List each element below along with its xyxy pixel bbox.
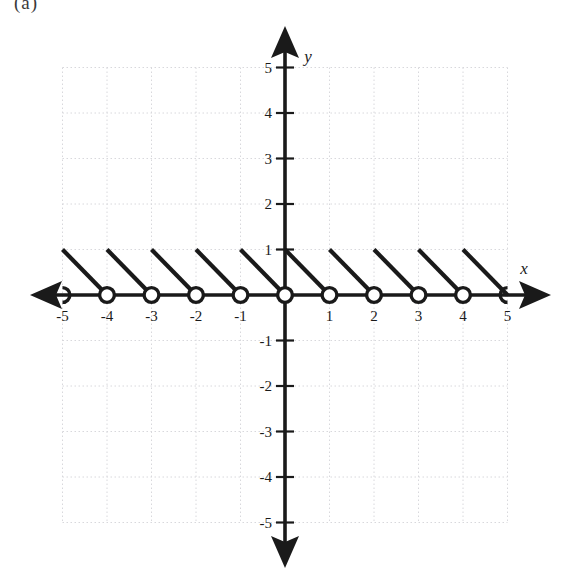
x-tick-label: 1	[326, 308, 334, 324]
function-segment	[419, 250, 464, 296]
x-tick-label: -2	[190, 308, 203, 324]
open-circle-marker	[144, 288, 159, 303]
y-tick-label: -2	[260, 378, 273, 394]
function-segment	[285, 250, 330, 296]
function-segment	[196, 250, 241, 296]
function-segment	[107, 250, 152, 296]
function-segment	[374, 250, 419, 296]
open-circle	[144, 288, 159, 303]
x-tick-label: -3	[145, 308, 158, 324]
open-circle-marker	[322, 288, 337, 303]
y-tick-label: 3	[265, 151, 273, 167]
y-tick-label: -4	[260, 469, 273, 485]
x-tick-label: 4	[459, 308, 467, 324]
function-segment	[152, 250, 197, 296]
y-axis-label: y	[302, 47, 312, 66]
y-tick-label: 2	[265, 196, 273, 212]
open-circle-marker	[100, 288, 115, 303]
open-circle-marker	[189, 288, 204, 303]
open-circle-marker	[456, 288, 471, 303]
function-segment	[241, 250, 286, 296]
cartesian-plane: -5-4-3-2-11234554321-1-2-3-4-5 x y	[0, 0, 562, 585]
open-circle	[278, 288, 293, 303]
open-circle-marker	[411, 288, 426, 303]
x-tick-label: -1	[234, 308, 247, 324]
y-tick-label: -3	[260, 424, 273, 440]
open-circle	[322, 288, 337, 303]
y-tick-label: 1	[265, 242, 273, 258]
open-circle	[233, 288, 248, 303]
x-tick-label: 3	[415, 308, 423, 324]
y-tick-label: -5	[260, 515, 273, 531]
y-tick-label: 4	[265, 105, 273, 121]
y-tick-label: 5	[265, 60, 273, 76]
open-circle	[189, 288, 204, 303]
open-circle	[456, 288, 471, 303]
x-tick-label: -4	[101, 308, 114, 324]
function-segment	[463, 250, 508, 296]
x-tick-label: -5	[56, 308, 69, 324]
open-circle-marker	[367, 288, 382, 303]
x-axis-label: x	[519, 259, 528, 278]
open-circle	[367, 288, 382, 303]
open-circle-marker	[278, 288, 293, 303]
y-tick-label: -1	[260, 333, 273, 349]
x-tick-label: 2	[370, 308, 378, 324]
function-segment	[330, 250, 375, 296]
open-circle	[411, 288, 426, 303]
open-circle-marker	[233, 288, 248, 303]
x-tick-label: 5	[504, 308, 512, 324]
graph-figure: (a) -5-4-3-2-11234554321-1-2-3-4-5 x y	[0, 0, 562, 585]
figure-caption: (a)	[14, 0, 38, 14]
open-circle	[100, 288, 115, 303]
function-segment	[63, 250, 108, 296]
